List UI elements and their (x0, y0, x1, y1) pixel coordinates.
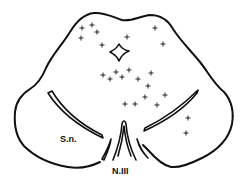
label-oculomotor-nerve: N.III (112, 166, 129, 176)
midbrain-outline (15, 13, 233, 168)
plus-marker-icon (143, 95, 148, 100)
plus-marker-icon (153, 26, 158, 31)
plus-marker-icon (114, 70, 119, 75)
plus-marker-icon (101, 73, 106, 78)
marker-group (79, 23, 191, 136)
plus-marker-icon (163, 93, 168, 98)
plus-marker-icon (80, 26, 85, 31)
plus-marker-icon (100, 43, 105, 48)
plus-marker-icon (146, 84, 151, 89)
plus-marker-icon (186, 116, 191, 121)
plus-marker-icon (125, 35, 130, 40)
label-substantia-nigra: S.n. (60, 134, 77, 144)
plus-marker-icon (136, 77, 141, 82)
cerebral-aqueduct (110, 44, 129, 61)
plus-marker-icon (108, 77, 113, 82)
plus-marker-icon (149, 71, 154, 76)
plus-marker-icon (95, 30, 100, 35)
plus-marker-icon (161, 42, 166, 47)
plus-marker-icon (127, 68, 132, 73)
substantia-nigra-left (48, 91, 103, 138)
substantia-nigra-right (144, 90, 198, 131)
plus-marker-icon (184, 131, 189, 136)
plus-marker-icon (90, 23, 95, 28)
plus-marker-icon (79, 36, 84, 41)
cerebral-peduncle-left-hook (102, 139, 111, 160)
midbrain-section-diagram: S.n. N.III (0, 0, 249, 188)
plus-marker-icon (120, 75, 125, 80)
plus-marker-icon (123, 102, 128, 107)
plus-marker-icon (133, 102, 138, 107)
plus-marker-icon (155, 103, 160, 108)
